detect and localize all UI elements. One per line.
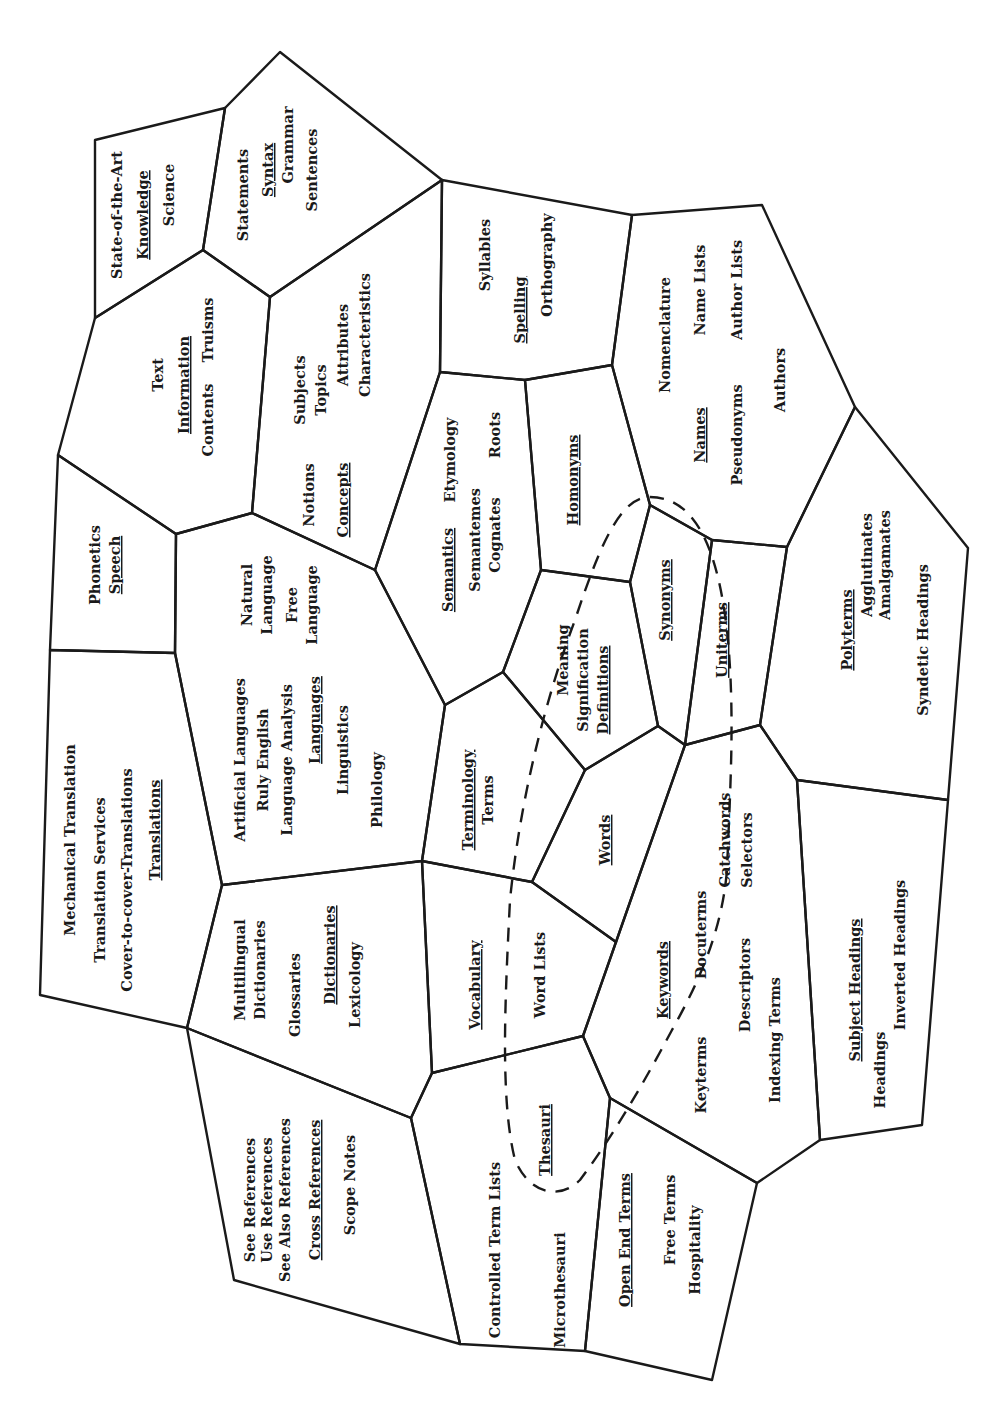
region-cross-references-labels: See References Use References See Also R… <box>241 1118 358 1282</box>
term-label: Multilingual <box>231 919 248 1021</box>
term-label: Grammar <box>279 106 296 183</box>
concept-map-diagram: State-of-the-Art Knowledge Science State… <box>0 0 990 1419</box>
term-label: Inverted Headings <box>891 880 908 1031</box>
region-dictionaries-labels: Multilingual Dictionaries Glossaries Dic… <box>231 905 363 1037</box>
region-names-labels: Nomenclature Name Lists Author Lists Aut… <box>656 240 788 486</box>
region-syntax-labels: Statements Syntax Grammar Sentences <box>234 106 320 241</box>
term-label: Cover-to-cover-Translations <box>118 768 135 991</box>
term-label: Dictionaries <box>251 920 268 1019</box>
term-label: Indexing Terms <box>766 977 783 1103</box>
term-label: Semantemes <box>466 488 483 592</box>
term-label: Philology <box>368 751 385 827</box>
term-label: Lexicology <box>346 942 363 1028</box>
heading-label: Translations <box>146 780 163 881</box>
heading-label: Dictionaries <box>321 905 338 1004</box>
region-spelling-labels: Syllables Spelling Orthography <box>476 213 555 344</box>
term-label: Text <box>149 358 166 392</box>
term-label: Glossaries <box>286 953 303 1037</box>
term-label: Linguistics <box>334 705 351 795</box>
term-label: Language <box>258 555 275 635</box>
heading-label: Knowledge <box>134 170 151 260</box>
term-label: Signification <box>574 628 591 732</box>
term-label: Catchwords <box>716 792 733 887</box>
term-label: Descriptors <box>736 938 753 1032</box>
term-label: Artificial Languages <box>231 678 248 843</box>
region-languages-labels: Natural Language Free Language Artificia… <box>231 555 385 843</box>
region-keywords-labels: Catchwords Selectors Keywords Docuterms … <box>654 792 783 1113</box>
region-thesauri-labels: Controlled Term Lists Thesauri Microthes… <box>486 1104 568 1348</box>
heading-label: Languages <box>306 676 323 764</box>
cell-boundaries <box>40 52 968 1380</box>
heading-label: Words <box>596 815 613 867</box>
term-label: Roots <box>486 412 503 458</box>
term-label: Statements <box>234 149 251 241</box>
region-open-end-terms-labels: Open End Terms Free Terms Hospitality <box>616 1173 703 1307</box>
region-semantics <box>375 372 541 705</box>
region-speech-labels: Phonetics Speech <box>86 525 123 605</box>
region-synonyms-labels: Synonyms <box>656 559 673 641</box>
term-label: State-of-the-Art <box>108 151 125 279</box>
term-label: Subjects <box>291 355 308 424</box>
region-homonyms <box>525 365 650 582</box>
region-subject-headings-labels: Subject Headings Inverted Headings Headi… <box>846 880 908 1109</box>
term-label: Notions <box>300 463 317 527</box>
term-label: Language Analysis <box>278 684 295 836</box>
region-polyterms-labels: Polyterms Agglutinates Amalgamates Synde… <box>838 510 931 716</box>
heading-label: Cross References <box>306 1120 323 1261</box>
heading-label: Open End Terms <box>616 1173 633 1307</box>
term-label: Author Lists <box>728 240 745 341</box>
term-label: Controlled Term Lists <box>486 1162 503 1338</box>
heading-label: Semantics <box>439 528 456 612</box>
heading-label: Syntax <box>259 143 276 198</box>
term-label: Natural <box>238 563 255 626</box>
term-label: Terms <box>479 775 496 825</box>
term-label: Ruly English <box>254 708 271 811</box>
term-label: Topics <box>312 364 329 415</box>
region-homonyms-labels: Homonyms <box>564 435 581 526</box>
term-label: Free <box>283 587 300 623</box>
region-semantics-labels: Semantics Etymology Semantemes Cognates … <box>439 412 503 612</box>
term-label: See References <box>241 1138 258 1262</box>
term-label: Mechanical Translation <box>61 744 78 936</box>
heading-label: Terminology <box>459 749 476 850</box>
region-translations-labels: Mechanical Translation Translation Servi… <box>61 744 163 992</box>
region-spelling <box>440 180 632 380</box>
term-label: Truisms <box>199 297 216 362</box>
term-label: See Also References <box>276 1118 293 1282</box>
term-label: Meaning <box>554 624 571 695</box>
heading-label: Definitions <box>594 646 611 735</box>
region-information-labels: Text Information Contents Truisms <box>149 297 216 456</box>
term-label: Pseudonyms <box>728 384 745 485</box>
region-words-labels: Words <box>596 815 613 867</box>
region-dictionaries <box>187 861 432 1118</box>
heading-label: Synonyms <box>656 559 673 641</box>
region-thesauri <box>411 1036 610 1351</box>
term-label: Microthesauri <box>551 1232 568 1348</box>
term-label: Keyterms <box>692 1036 709 1113</box>
term-label: Language <box>303 565 320 645</box>
heading-label: Uniterms <box>713 602 730 678</box>
term-label: Translation Services <box>91 797 108 962</box>
term-label: Word Lists <box>531 932 548 1019</box>
heading-label: Speech <box>106 535 123 594</box>
term-label: Free Terms <box>661 1175 678 1266</box>
term-label: Docuterms <box>692 891 709 980</box>
term-label: Characteristics <box>356 273 373 397</box>
region-terminology <box>422 672 585 882</box>
term-label: Agglutinates <box>858 513 875 618</box>
region-knowledge-labels: State-of-the-Art Knowledge Science <box>108 151 177 279</box>
term-label: Orthography <box>538 213 555 317</box>
term-label: Syndetic Headings <box>914 564 931 716</box>
region-concepts-labels: Subjects Topics Attributes Characteristi… <box>291 273 373 537</box>
labels: State-of-the-Art Knowledge Science State… <box>61 106 931 1348</box>
heading-label: Vocabulary <box>466 940 483 1031</box>
term-label: Selectors <box>738 812 755 887</box>
term-label: Scope Notes <box>341 1135 358 1235</box>
heading-label: Concepts <box>334 463 351 538</box>
heading-label: Subject Headings <box>846 918 863 1061</box>
heading-label: Spelling <box>511 276 528 343</box>
heading-label: Information <box>175 336 192 434</box>
region-vocabulary <box>422 861 616 1073</box>
term-label: Contents <box>199 383 216 456</box>
heading-label: Keywords <box>654 941 671 1019</box>
